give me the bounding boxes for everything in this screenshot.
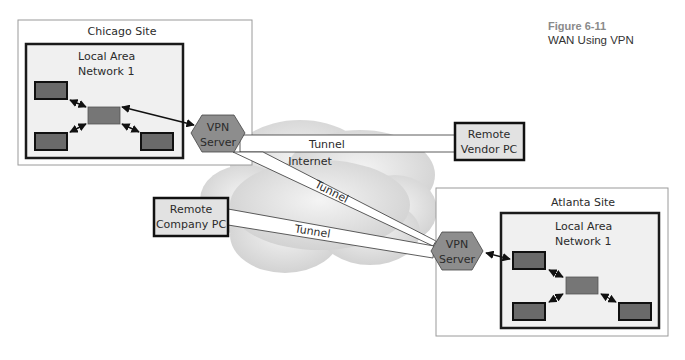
chicago-vpn-server: VPN Server — [191, 115, 245, 152]
chicago-device-top-left — [35, 82, 67, 99]
chicago-vpn-label-1: VPN — [207, 121, 229, 134]
chicago-lan-label-2: Network 1 — [78, 65, 134, 78]
atlanta-lan-label-2: Network 1 — [555, 235, 611, 248]
atlanta-vpn-label-1: VPN — [446, 238, 468, 251]
figure-title: WAN Using VPN — [548, 34, 634, 46]
remote-company-pc: Remote Company PC — [154, 198, 228, 236]
chicago-device-bottom-right — [141, 133, 173, 150]
tunnel-label-vendor: Tunnel — [308, 138, 345, 151]
figure-number: Figure 6-11 — [548, 20, 606, 32]
internet-label: Internet — [288, 155, 332, 168]
atlanta-vpn-label-2: Server — [439, 253, 476, 266]
atlanta-lan-label-1: Local Area — [555, 220, 612, 233]
chicago-site-label: Chicago Site — [88, 25, 157, 38]
remote-vendor-pc-label-1: Remote — [468, 128, 511, 141]
chicago-lan-label-1: Local Area — [78, 50, 135, 63]
atlanta-vpn-server: VPN Server — [431, 232, 483, 270]
remote-vendor-pc: Remote Vendor PC — [455, 123, 524, 160]
chicago-hub — [88, 107, 120, 124]
remote-company-pc-label-2: Company PC — [156, 218, 226, 231]
remote-vendor-pc-label-2: Vendor PC — [461, 143, 518, 156]
vpn-wan-diagram: Chicago Site Local Area Network 1 Tunnel… — [0, 0, 685, 360]
tunnel-chicago-vendor — [240, 135, 455, 152]
atlanta-device-top-left — [513, 252, 545, 269]
atlanta-device-bottom-left — [513, 303, 545, 320]
atlanta-hub — [566, 277, 598, 294]
chicago-device-bottom-left — [35, 133, 67, 150]
remote-company-pc-label-1: Remote — [170, 203, 213, 216]
atlanta-site-label: Atlanta Site — [551, 196, 615, 209]
atlanta-device-bottom-right — [619, 303, 651, 320]
chicago-vpn-label-2: Server — [200, 136, 237, 149]
figure-caption: Figure 6-11 WAN Using VPN — [548, 20, 634, 46]
